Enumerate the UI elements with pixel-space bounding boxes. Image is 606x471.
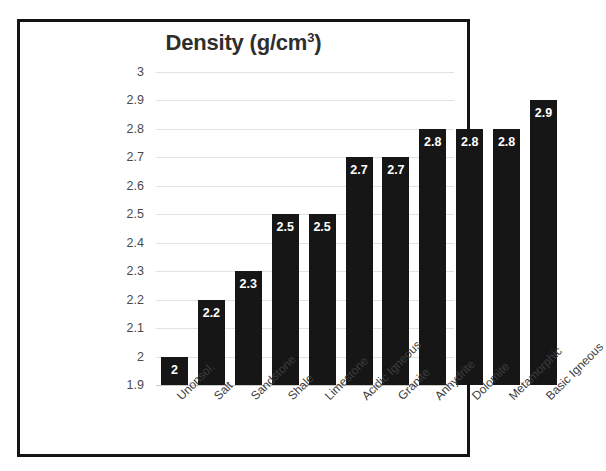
y-axis-tick-label: 2.2 [98,293,144,307]
bar[interactable] [346,157,373,385]
gridline [156,100,454,101]
bar[interactable] [235,271,262,385]
y-axis-tick-label: 2.4 [98,236,144,250]
bar[interactable] [309,214,336,385]
y-axis-tick-label: 2.5 [98,207,144,221]
y-axis-tick-label: 1.9 [98,378,144,392]
y-axis-tick-label: 2.8 [98,122,144,136]
y-axis-tick-label: 2.6 [98,179,144,193]
bar[interactable] [456,129,483,385]
bar[interactable] [493,129,520,385]
y-axis-tick-label: 2.1 [98,321,144,335]
y-axis-tick-label: 2 [98,350,144,364]
chart-title-main: Density (g/cm [166,30,308,55]
chart-title: Density (g/cm3) [20,30,467,56]
y-axis-tick-label: 3 [98,65,144,79]
y-axis-tick-label: 2.7 [98,150,144,164]
chart-title-tail: ) [314,30,321,55]
y-axis-tick-label: 2.9 [98,93,144,107]
bar[interactable] [530,100,557,385]
chart-container: Density (g/cm3) 32.92.82.72.62.52.42.32.… [17,19,470,457]
y-axis-tick-label: 2.3 [98,264,144,278]
gridline [156,129,454,130]
gridline [156,72,454,73]
bar[interactable] [161,357,188,385]
